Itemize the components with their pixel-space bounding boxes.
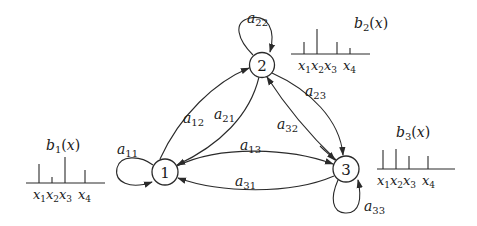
emission-title-b1: b1(x) [46,137,80,155]
edge-a12 [160,68,249,159]
state-node-1: 1 [152,159,178,185]
svg-text:x1: x1 [377,173,390,190]
state-label-1: 1 [160,164,170,182]
state-node-2: 2 [250,53,275,78]
emission-chart-b3: b3(x) x1 x2 x3 x4 [377,124,455,190]
svg-text:x3: x3 [403,173,416,190]
emission-chart-b1: b1(x) x1 x2 x3 x4 [26,137,105,204]
state-label-2: 2 [257,57,267,75]
label-a13: a13 [240,137,261,155]
loop-a33 [333,180,360,213]
label-a12: a12 [183,110,204,128]
edge-a32-tail [320,146,335,160]
label-a23: a23 [305,83,326,101]
label-a21: a21 [214,106,235,124]
loop-a11 [117,158,153,185]
emission-title-b3: b3(x) [396,124,430,142]
hmm-state-diagram: 1 2 3 a11 a12 a13 a21 a22 a23 a31 a32 a3… [0,0,477,226]
label-a11: a11 [117,141,138,159]
label-a22: a22 [247,10,268,28]
label-a32: a32 [277,116,298,134]
svg-text:x2: x2 [46,187,59,204]
svg-text:x4: x4 [422,173,435,190]
svg-text:x2: x2 [311,58,324,75]
label-a31: a31 [235,173,256,191]
svg-text:x4: x4 [343,58,356,75]
svg-text:x2: x2 [390,173,403,190]
state-node-3: 3 [333,156,359,182]
state-label-3: 3 [341,161,351,179]
svg-text:x1: x1 [298,58,311,75]
label-a33: a33 [364,198,385,216]
emission-chart-b2: b2(x) x1 x2 x3 x4 [291,15,388,75]
svg-text:x4: x4 [78,187,91,204]
svg-text:x3: x3 [324,58,337,75]
svg-text:x3: x3 [59,187,72,204]
emission-title-b2: b2(x) [354,15,388,33]
svg-text:x1: x1 [33,187,46,204]
